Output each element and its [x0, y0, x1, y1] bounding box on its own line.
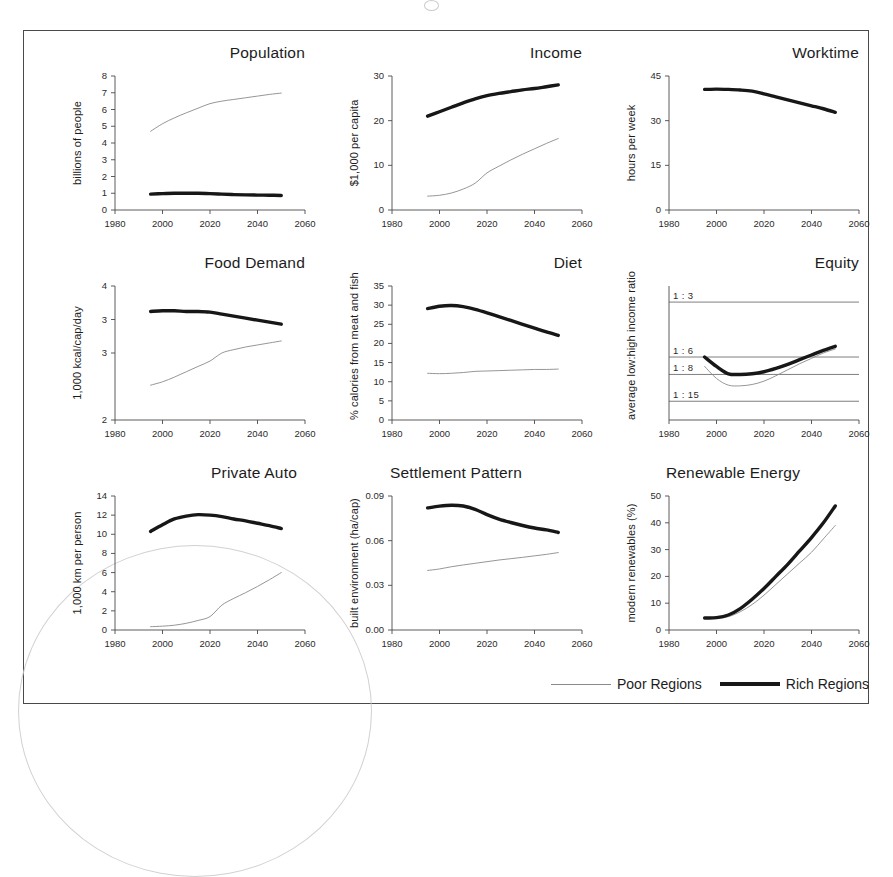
x-tick-label: 2020	[744, 428, 784, 439]
y-tick-label: 10	[53, 528, 107, 539]
x-tick-label: 2000	[697, 638, 737, 649]
y-tick-label: 12	[53, 509, 107, 520]
chart-panel-private-auto: Private Auto1,000 km per person024681012…	[53, 458, 315, 658]
y-tick-label: 6	[53, 567, 107, 578]
y-tick-label: 0.00	[330, 624, 384, 635]
y-tick-label: 20	[330, 115, 384, 126]
x-tick-label: 2000	[143, 638, 183, 649]
x-tick-label: 2060	[562, 218, 602, 229]
x-tick-label: 1980	[95, 638, 135, 649]
chart-panel-diet: Diet% calories from meat and fish0510152…	[330, 248, 592, 448]
y-tick-label: 8	[53, 547, 107, 558]
x-tick-label: 2000	[697, 428, 737, 439]
series-line-rich-regions	[428, 85, 559, 116]
plot-area-food-demand	[115, 286, 305, 420]
y-tick-label: 45	[607, 70, 661, 81]
y-tick-label: 20	[330, 337, 384, 348]
x-tick-label: 2000	[420, 218, 460, 229]
chart-title-settlement-pattern: Settlement Pattern	[330, 464, 582, 482]
series-line-rich-regions	[151, 311, 282, 324]
x-tick-label: 2020	[467, 428, 507, 439]
x-tick-label: 2020	[467, 638, 507, 649]
chart-ylabel-worktime: hours per week	[625, 76, 637, 210]
y-tick-label: 3	[53, 314, 107, 325]
x-tick-label: 1980	[372, 428, 412, 439]
x-tick-label: 2060	[839, 218, 879, 229]
plot-area-diet	[392, 286, 582, 420]
chart-panel-food-demand: Food Demand1,000 kcal/cap/day43321980200…	[53, 248, 315, 448]
x-tick-label: 2060	[285, 428, 325, 439]
x-tick-label: 2000	[420, 428, 460, 439]
equity-gridline-label: 1 : 8	[673, 362, 694, 373]
y-tick-label: 5	[330, 395, 384, 406]
y-tick-label: 0.03	[330, 579, 384, 590]
y-tick-label: 2	[53, 171, 107, 182]
y-tick-label: 4	[53, 280, 107, 291]
x-tick-label: 2020	[744, 638, 784, 649]
legend-swatch-poor-icon	[551, 684, 611, 685]
chart-grid: Populationbillions of people012345678198…	[23, 30, 869, 704]
series-line-poor-regions	[428, 369, 559, 374]
series-line-rich-regions	[151, 193, 282, 195]
y-tick-label: 0	[330, 414, 384, 425]
chart-title-equity: Equity	[607, 254, 859, 272]
y-tick-label: 30	[330, 70, 384, 81]
y-tick-label: 0	[607, 204, 661, 215]
y-tick-label: 0	[53, 204, 107, 215]
y-tick-label: 20	[607, 570, 661, 581]
plot-area-renewable-energy	[669, 496, 859, 630]
x-tick-label: 2060	[839, 428, 879, 439]
x-tick-label: 2020	[190, 638, 230, 649]
y-tick-label: 7	[53, 87, 107, 98]
chart-ylabel-settlement-pattern: built environment (ha/cap)	[348, 496, 360, 630]
x-tick-label: 2060	[562, 428, 602, 439]
x-tick-label: 1980	[372, 218, 412, 229]
chart-panel-renewable-energy: Renewable Energymodern renewables (%)010…	[607, 458, 869, 658]
chart-title-food-demand: Food Demand	[53, 254, 305, 272]
y-tick-label: 35	[330, 280, 384, 291]
series-line-poor-regions	[151, 573, 282, 627]
x-tick-label: 2020	[190, 218, 230, 229]
chart-ylabel-equity: average low:high income ratio	[625, 286, 637, 420]
y-tick-label: 10	[330, 159, 384, 170]
y-tick-label: 15	[607, 159, 661, 170]
equity-gridline-label: 1 : 15	[673, 389, 699, 400]
y-tick-label: 6	[53, 104, 107, 115]
y-tick-label: 15	[330, 357, 384, 368]
plot-area-income	[392, 76, 582, 210]
x-tick-label: 2000	[420, 638, 460, 649]
y-tick-label: 5	[53, 120, 107, 131]
chart-panel-population: Populationbillions of people012345678198…	[53, 38, 315, 238]
chart-panel-settlement-pattern: Settlement Patternbuilt environment (ha/…	[330, 458, 592, 658]
chart-title-diet: Diet	[330, 254, 582, 272]
legend-item-poor: Poor Regions	[551, 676, 702, 692]
chart-title-worktime: Worktime	[607, 44, 859, 62]
x-tick-label: 2020	[744, 218, 784, 229]
x-tick-label: 1980	[95, 218, 135, 229]
y-tick-label: 0	[53, 624, 107, 635]
series-line-rich-regions	[428, 505, 559, 532]
plot-area-settlement-pattern	[392, 496, 582, 630]
series-line-poor-regions	[705, 525, 836, 618]
x-tick-label: 2060	[562, 638, 602, 649]
chart-panel-income: Income$1,000 per capita01020301980200020…	[330, 38, 592, 238]
y-tick-label: 8	[53, 70, 107, 81]
series-line-rich-regions	[705, 89, 836, 112]
y-tick-label: 30	[607, 544, 661, 555]
scan-artifact-top	[424, 0, 439, 11]
equity-gridline-label: 1 : 3	[673, 290, 694, 301]
y-tick-label: 2	[53, 414, 107, 425]
x-tick-label: 2040	[238, 218, 278, 229]
y-tick-label: 40	[607, 517, 661, 528]
x-tick-label: 2040	[515, 218, 555, 229]
series-line-rich-regions	[705, 346, 836, 374]
x-tick-label: 1980	[649, 428, 689, 439]
legend: Poor Regions Rich Regions	[551, 676, 869, 692]
plot-area-private-auto	[115, 496, 305, 630]
series-line-poor-regions	[428, 139, 559, 197]
legend-label-poor: Poor Regions	[617, 676, 702, 692]
y-tick-label: 0.06	[330, 535, 384, 546]
chart-panel-worktime: Worktimehours per week015304519802000202…	[607, 38, 869, 238]
y-tick-label: 4	[53, 586, 107, 597]
